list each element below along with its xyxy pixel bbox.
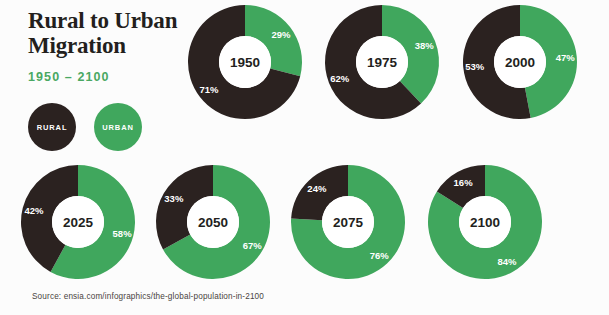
urban-percent-label-2075: 76%: [370, 250, 390, 261]
source-citation: Source: ensia.com/infographics/the-globa…: [32, 292, 264, 301]
page-title: Rural to Urban Migration: [28, 8, 188, 58]
urban-percent-label-1950: 29%: [271, 29, 291, 40]
donut-year-label-2075: 2075: [333, 215, 364, 230]
title-line-2: Migration: [28, 33, 188, 58]
legend: RURAL URBAN: [28, 103, 142, 151]
donut-chart-1975: 197538%62%: [321, 1, 443, 123]
legend-label-rural: RURAL: [37, 123, 68, 132]
header: Rural to Urban Migration 1950 – 2100: [28, 8, 188, 84]
donut-year-label-1975: 1975: [367, 55, 398, 70]
rural-percent-label-1950: 71%: [200, 84, 220, 95]
rural-percent-label-2000: 53%: [465, 61, 485, 72]
urban-percent-label-2050: 67%: [243, 240, 263, 251]
rural-percent-label-2025: 42%: [24, 205, 44, 216]
subtitle-year-range: 1950 – 2100: [28, 70, 188, 84]
urban-percent-label-1975: 38%: [415, 40, 435, 51]
donut-year-label-2000: 2000: [505, 55, 535, 70]
title-line-1: Rural to Urban: [28, 8, 177, 33]
donut-chart-1950: 195029%71%: [184, 1, 306, 123]
legend-item-urban: URBAN: [94, 103, 142, 151]
rural-percent-label-1975: 62%: [330, 73, 350, 84]
donut-year-label-2025: 2025: [63, 215, 94, 230]
urban-percent-label-2000: 47%: [556, 52, 576, 63]
urban-percent-label-2100: 84%: [497, 256, 517, 267]
donut-year-label-2100: 2100: [470, 215, 500, 230]
legend-item-rural: RURAL: [28, 103, 76, 151]
legend-label-urban: URBAN: [102, 123, 134, 132]
donut-chart-2000: 200047%53%: [459, 1, 581, 123]
donut-year-label-1950: 1950: [230, 55, 260, 70]
donut-chart-2050: 205067%33%: [152, 161, 274, 283]
urban-percent-label-2025: 58%: [113, 228, 133, 239]
rural-percent-label-2075: 24%: [307, 183, 327, 194]
donut-year-label-2050: 2050: [198, 215, 228, 230]
rural-percent-label-2100: 16%: [454, 177, 474, 188]
infographic-canvas: Rural to Urban Migration 1950 – 2100 RUR…: [0, 0, 609, 315]
donut-chart-2100: 210084%16%: [424, 161, 546, 283]
donut-chart-2025: 202558%42%: [17, 161, 139, 283]
rural-percent-label-2050: 33%: [164, 193, 184, 204]
donut-chart-2075: 207576%24%: [287, 161, 409, 283]
